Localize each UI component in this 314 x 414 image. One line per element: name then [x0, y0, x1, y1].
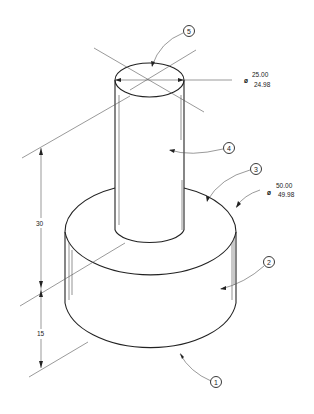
large-diameter-upper: 50.00: [276, 182, 293, 189]
arrow-head: [178, 78, 184, 82]
centerline: [130, 50, 196, 90]
arrow-head: [39, 148, 43, 155]
svg-text:3: 3: [254, 166, 258, 173]
leaders: [151, 33, 264, 381]
diameter-symbol: ø: [244, 77, 248, 84]
arrow-head: [39, 361, 43, 368]
large-cylinder-top-edge: [65, 188, 236, 275]
svg-text:5: 5: [187, 28, 191, 35]
height-upper-label: 30: [36, 220, 44, 227]
large-cylinder: [65, 188, 236, 348]
balloon-4: 4: [224, 143, 235, 154]
balloon-5: 5: [184, 26, 195, 37]
leader-2: [221, 266, 264, 289]
small-diameter-lower: 24.98: [254, 81, 271, 88]
svg-text:2: 2: [267, 259, 271, 266]
arrow-head: [115, 78, 121, 82]
balloon-3: 3: [251, 164, 262, 175]
arrow-head: [220, 286, 226, 290]
leader-5: [152, 33, 183, 66]
height-dimensions: 30 15: [20, 96, 130, 377]
large-cylinder-bottom-edge: [65, 303, 236, 348]
balloon-1: 1: [211, 377, 222, 388]
extension-line: [20, 243, 125, 306]
arrow-head: [39, 290, 43, 297]
leader-1: [180, 354, 211, 381]
arrow-head: [39, 281, 43, 288]
diameter-symbol: ø: [267, 189, 271, 196]
svg-text:1: 1: [214, 379, 218, 386]
arrow-head: [169, 149, 175, 153]
arrow-head: [206, 196, 210, 202]
small-diameter-upper: 25.00: [252, 71, 269, 78]
arrow-head: [151, 61, 155, 67]
small-cylinder-bottom-edge: [115, 230, 184, 242]
large-diameter-lower: 49.98: [278, 191, 295, 198]
leader-4: [170, 149, 223, 153]
large-diameter-dimension: ø 50.00 49.98: [236, 182, 295, 208]
technical-drawing: ø 25.00 24.98 ø 50.00 49.98 30 15: [0, 0, 314, 414]
extension-line: [22, 96, 130, 158]
extension-line: [29, 342, 88, 377]
leader-3: [207, 170, 250, 201]
arrow-head: [180, 353, 184, 359]
height-lower-label: 15: [37, 330, 45, 337]
svg-text:4: 4: [227, 145, 231, 152]
balloon-2: 2: [264, 257, 275, 268]
